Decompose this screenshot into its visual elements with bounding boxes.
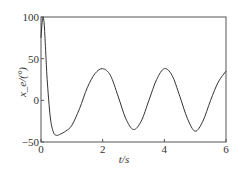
svg-text:100: 100 <box>23 11 40 23</box>
svg-text:4: 4 <box>162 143 168 155</box>
svg-text:2: 2 <box>100 143 106 155</box>
svg-text:50: 50 <box>28 53 40 65</box>
svg-text:−50: −50 <box>22 136 40 148</box>
data-line <box>41 17 226 135</box>
plot-frame <box>41 17 226 142</box>
x-axis-ticks: 0246 <box>38 139 229 155</box>
svg-text:0: 0 <box>34 94 40 106</box>
svg-text:6: 6 <box>223 143 229 155</box>
x-axis-label: t/s <box>119 153 129 165</box>
chart: −50050100 0246 t/s x_e/(°) <box>0 0 240 170</box>
y-axis-label: x_e/(°) <box>16 67 29 98</box>
svg-text:0: 0 <box>38 143 44 155</box>
